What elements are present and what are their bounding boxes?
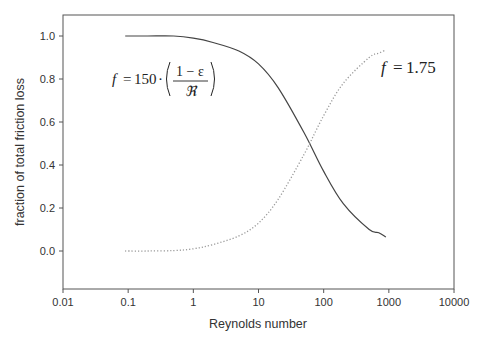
x-axis-label: Reynolds number — [209, 317, 307, 331]
eq-dot: · — [158, 71, 163, 87]
eq-numerator: 1 − ε — [176, 64, 204, 79]
y-tick-label: 1.0 — [40, 30, 55, 42]
y-tick-label: 0.6 — [40, 116, 55, 128]
y-tick-label: 0.4 — [40, 159, 55, 171]
x-tick-label: 10000 — [439, 296, 470, 308]
x-axis: 0.010.1110100100010000 — [52, 289, 469, 308]
y-tick-label: 0.2 — [40, 202, 55, 214]
y-axis: 0.00.20.40.60.81.0 — [40, 30, 63, 257]
x-tick-label: 0.01 — [52, 296, 73, 308]
x-tick-label: 1000 — [377, 296, 401, 308]
eq2-equals: = — [393, 58, 403, 77]
eq-equals: = — [123, 71, 131, 87]
x-tick-label: 100 — [315, 296, 333, 308]
x-tick-label: 10 — [252, 296, 264, 308]
plot-frame — [63, 15, 454, 289]
eq2-value: 1.75 — [406, 58, 436, 77]
eq-coefficient: 150 — [134, 71, 157, 87]
friction-loss-chart: 0.010.1110100100010000 0.00.20.40.60.81.… — [0, 0, 482, 348]
y-axis-label: fraction of total friction loss — [13, 78, 27, 226]
y-tick-label: 0.0 — [40, 245, 55, 257]
y-tick-label: 0.8 — [40, 73, 55, 85]
x-tick-label: 1 — [190, 296, 196, 308]
x-tick-label: 0.1 — [121, 296, 136, 308]
